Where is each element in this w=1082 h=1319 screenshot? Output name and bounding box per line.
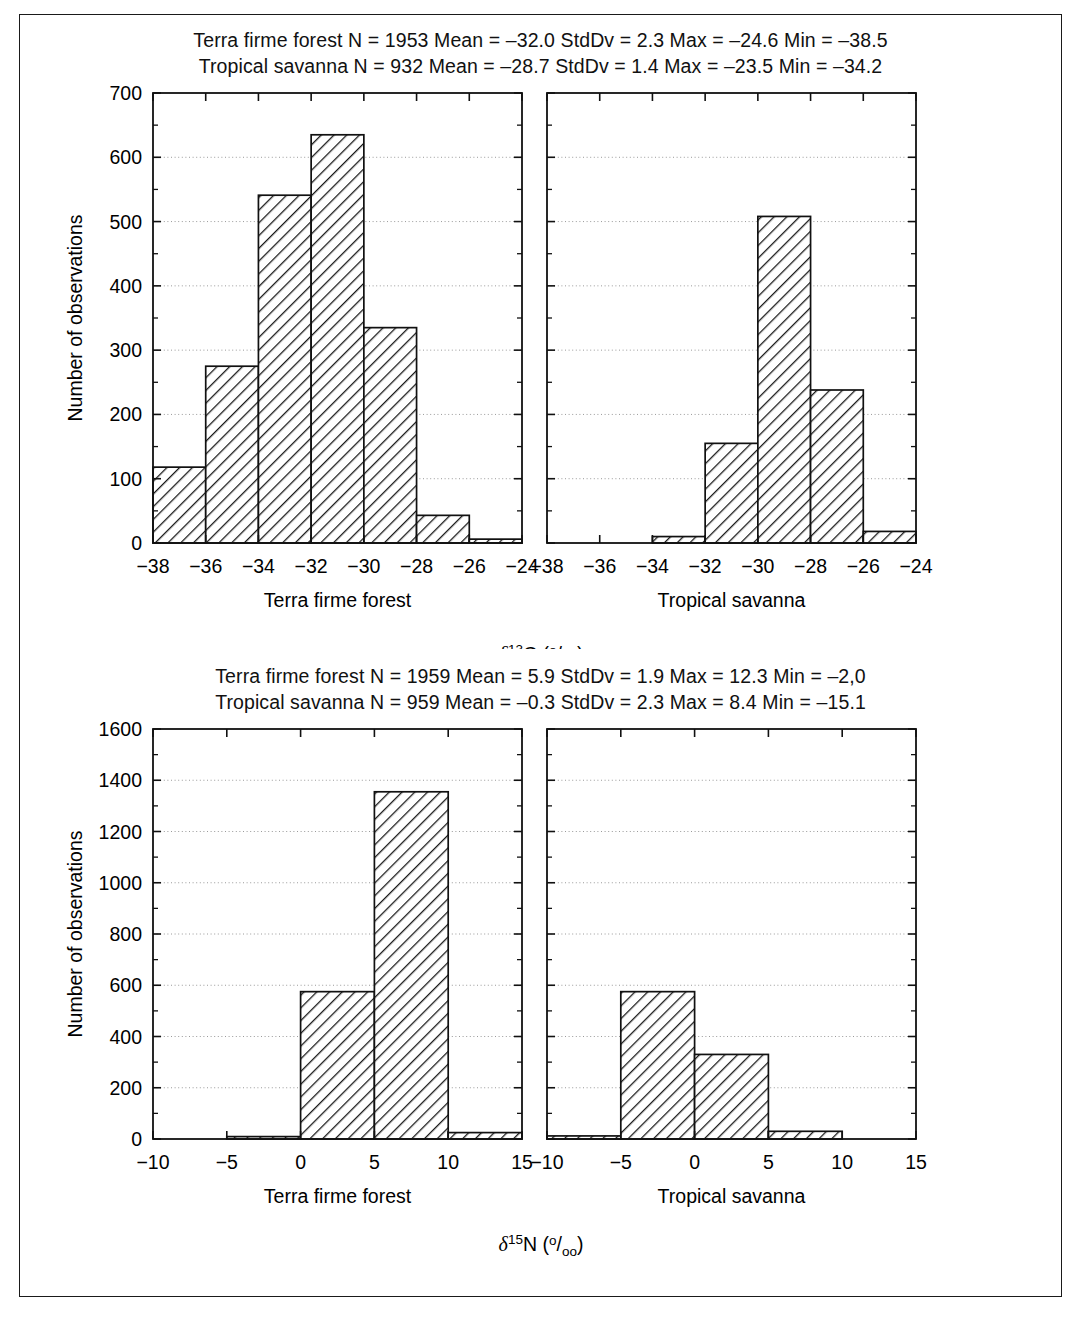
x-tick-label: 0 (295, 1151, 306, 1173)
panel-label: Tropical savanna (658, 589, 806, 611)
plot-panel: 0100200300400500600700−38−36−34−32−30−28… (109, 82, 538, 611)
x-tick-label: −30 (741, 555, 774, 577)
histogram-bar (758, 216, 811, 543)
y-tick-label: 1200 (99, 821, 143, 843)
nitrogen-histogram-pair: 02004006008001000120014001600−10−5051015… (20, 715, 1063, 1275)
histogram-bars (227, 792, 522, 1139)
histogram-bar (364, 328, 417, 543)
nitrogen-stats-line-savanna: Tropical savanna N = 959 Mean = –0.3 Std… (20, 689, 1061, 715)
x-tick-label: 5 (369, 1151, 380, 1173)
x-tick-label: −30 (347, 555, 380, 577)
y-tick-label: 1000 (99, 872, 143, 894)
histogram-bar (705, 443, 758, 543)
x-tick-label: −24 (899, 555, 932, 577)
x-tick-label: 10 (437, 1151, 459, 1173)
panel-label: Terra firme forest (264, 1185, 412, 1207)
histogram-bar (448, 1133, 522, 1139)
x-tick-label: −10 (136, 1151, 169, 1173)
nitrogen-stats-header: Terra firme forest N = 1959 Mean = 5.9 S… (20, 663, 1061, 715)
x-tick-label: −28 (794, 555, 827, 577)
x-tick-label: −26 (847, 555, 880, 577)
histogram-bar (374, 792, 448, 1139)
x-tick-label: −34 (242, 555, 275, 577)
histogram-bar (301, 992, 375, 1139)
x-tick-label: −26 (453, 555, 486, 577)
x-tick-label: −28 (400, 555, 433, 577)
histogram-bars (547, 992, 842, 1139)
y-tick-label: 0 (131, 532, 142, 554)
histogram-bar (695, 1054, 769, 1139)
y-tick-label: 500 (109, 211, 142, 233)
y-tick-label: 200 (109, 1077, 142, 1099)
x-tick-label: 0 (689, 1151, 700, 1173)
y-tick-label: 600 (109, 146, 142, 168)
histogram-bars (153, 135, 522, 543)
y-tick-label: 100 (109, 468, 142, 490)
x-tick-label: −5 (610, 1151, 632, 1173)
nitrogen-isotope-figure: Terra firme forest N = 1959 Mean = 5.9 S… (20, 663, 1061, 1283)
carbon-isotope-figure: Terra firme forest N = 1953 Mean = –32.0… (20, 27, 1061, 657)
y-tick-label: 200 (109, 403, 142, 425)
carbon-stats-header: Terra firme forest N = 1953 Mean = –32.0… (20, 27, 1061, 79)
x-tick-label: 5 (763, 1151, 774, 1173)
x-tick-label: −5 (216, 1151, 238, 1173)
x-tick-label: 15 (905, 1151, 927, 1173)
x-tick-label: −36 (189, 555, 222, 577)
y-tick-label: 600 (109, 974, 142, 996)
x-axis-title: δ15N (o/oo) (499, 1232, 584, 1259)
histogram-bar (768, 1131, 842, 1139)
carbon-stats-line-savanna: Tropical savanna N = 932 Mean = –28.7 St… (20, 53, 1061, 79)
x-tick-label: −32 (689, 555, 722, 577)
svg-text:δ15N (o/oo): δ15N (o/oo) (499, 1232, 584, 1259)
y-axis-label: Number of observations (64, 830, 86, 1037)
x-tick-label: −10 (530, 1151, 563, 1173)
x-tick-label: −34 (636, 555, 669, 577)
histogram-bar (652, 537, 705, 543)
y-tick-label: 1600 (99, 718, 143, 740)
histogram-bar (258, 195, 311, 543)
x-tick-label: −38 (530, 555, 563, 577)
y-tick-label: 0 (131, 1128, 142, 1150)
y-tick-label: 700 (109, 82, 142, 104)
y-axis-label: Number of observations (64, 214, 86, 421)
y-tick-label: 400 (109, 275, 142, 297)
plot-panel: −10−5051015Tropical savanna (530, 729, 927, 1207)
carbon-stats-line-forest: Terra firme forest N = 1953 Mean = –32.0… (20, 27, 1061, 53)
panel-label: Terra firme forest (264, 589, 412, 611)
panel-label: Tropical savanna (658, 1185, 806, 1207)
plot-panel: −38−36−34−32−30−28−26−24Tropical savanna (530, 93, 932, 611)
svg-text:δ13C (o/oo): δ13C (o/oo) (499, 642, 584, 649)
x-axis-title: δ13C (o/oo) (499, 642, 584, 649)
nitrogen-stats-line-forest: Terra firme forest N = 1959 Mean = 5.9 S… (20, 663, 1061, 689)
figure-page-frame: Terra firme forest N = 1953 Mean = –32.0… (19, 14, 1062, 1297)
plot-panel: 02004006008001000120014001600−10−5051015… (99, 718, 533, 1207)
histogram-bar (621, 992, 695, 1139)
y-tick-label: 400 (109, 1026, 142, 1048)
x-tick-label: −36 (583, 555, 616, 577)
histogram-bar (206, 366, 259, 543)
histogram-bar (417, 515, 470, 543)
histogram-bars (652, 216, 916, 543)
y-tick-label: 800 (109, 923, 142, 945)
y-tick-label: 300 (109, 339, 142, 361)
y-tick-label: 1400 (99, 769, 143, 791)
histogram-bar (311, 135, 364, 543)
carbon-histogram-pair: 0100200300400500600700−38−36−34−32−30−28… (20, 79, 1063, 649)
histogram-bar (811, 390, 864, 543)
histogram-bar (863, 531, 916, 543)
x-tick-label: 10 (831, 1151, 853, 1173)
x-tick-label: −38 (136, 555, 169, 577)
x-tick-label: −32 (295, 555, 328, 577)
